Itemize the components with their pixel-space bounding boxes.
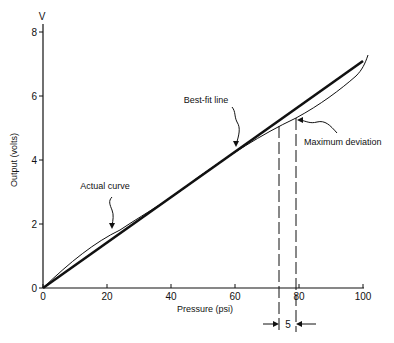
y-axis-title: Output (volts) <box>9 133 19 187</box>
x-tick-label: 60 <box>229 291 241 302</box>
x-tick-label: 40 <box>165 291 177 302</box>
x-tick-label: 80 <box>293 291 305 302</box>
y-tick-label: 6 <box>31 91 37 102</box>
best-fit-arrowhead <box>233 141 239 147</box>
y-tick-label: 0 <box>31 283 37 294</box>
max-deviation-arrowhead <box>297 117 303 123</box>
dimension-arrowhead-right <box>296 321 302 327</box>
dimension-arrowhead-left <box>273 321 279 327</box>
y-tick-label: 2 <box>31 219 37 230</box>
x-tick-label: 20 <box>101 291 113 302</box>
chart-canvas: 0 2 4 6 8 V 0 20 40 60 80 100 Pressure (… <box>0 0 394 343</box>
max-deviation-label: Maximum deviation <box>304 137 382 147</box>
actual-curve-pointer <box>110 197 113 226</box>
x-tick-label: 0 <box>40 291 46 302</box>
actual-curve-arrowhead <box>109 223 115 229</box>
actual-curve-label: Actual curve <box>80 181 130 191</box>
y-tick-label: 8 <box>31 27 37 38</box>
x-tick-label: 100 <box>355 291 372 302</box>
best-fit-label: Best-fit line <box>184 95 229 105</box>
x-axis-title: Pressure (psi) <box>177 304 233 314</box>
y-unit-label: V <box>39 11 46 22</box>
y-tick-label: 4 <box>31 155 37 166</box>
best-fit-pointer <box>232 107 239 145</box>
dimension-label: 5 <box>285 319 291 330</box>
max-deviation-pointer <box>300 120 337 133</box>
